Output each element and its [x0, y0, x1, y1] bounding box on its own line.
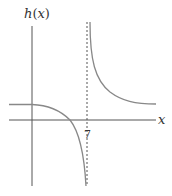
rational-function-graph: h(x) x 7 [0, 0, 172, 196]
curve-right-branch [90, 22, 156, 104]
x-axis-label: x [158, 112, 166, 127]
curve-left-branch [9, 105, 86, 187]
tick-label-7: 7 [84, 128, 91, 141]
y-axis-label: h(x) [24, 6, 50, 21]
